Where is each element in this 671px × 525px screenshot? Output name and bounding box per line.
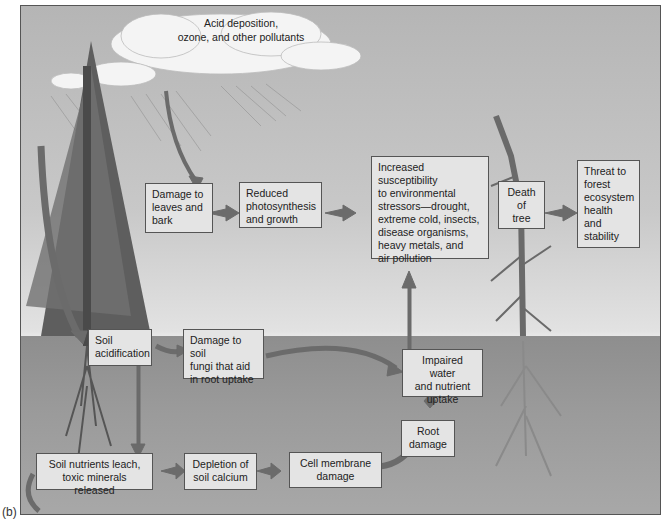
living-tree-icon	[26, 41, 151, 476]
illustration-layer	[21, 6, 660, 514]
box-threat-to-ecosystem: Threat to forest ecosystem health and st…	[577, 160, 640, 248]
box-depletion-calcium: Depletion of soil calcium	[184, 453, 257, 490]
figure-label: (b)	[2, 505, 17, 519]
box-damage-soil-fungi: Damage to soil fungi that aid in root up…	[183, 329, 264, 379]
dead-tree-icon	[491, 116, 561, 476]
box-soil-nutrients-leach: Soil nutrients leach, toxic minerals rel…	[36, 453, 153, 490]
box-impaired-uptake: Impaired water and nutrient uptake	[402, 349, 483, 397]
diagram-frame: Acid deposition, ozone, and other pollut…	[20, 5, 661, 515]
box-soil-acidification: Soil acidification	[88, 329, 152, 366]
box-reduced-photosynthesis: Reduced photosynthesis and growth	[239, 182, 322, 228]
box-cell-membrane-damage: Cell membrane damage	[289, 452, 382, 488]
box-death-of-tree: Death of tree	[498, 181, 545, 229]
box-root-damage: Root damage	[401, 420, 455, 457]
box-increased-susceptibility: Increased susceptibility to environmenta…	[371, 156, 489, 259]
cloud-label: Acid deposition, ozone, and other pollut…	[141, 16, 341, 44]
box-damage-leaves: Damage to leaves and bark	[145, 183, 213, 233]
